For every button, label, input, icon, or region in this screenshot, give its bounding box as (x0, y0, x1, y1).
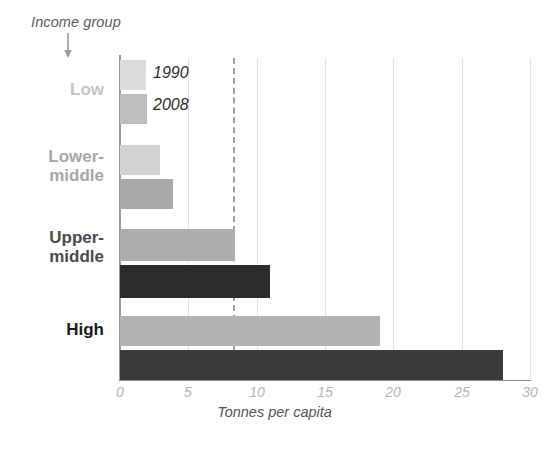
arrow-down-icon (62, 33, 74, 59)
x-axis-title: Tonnes per capita (0, 404, 549, 420)
x-tick-0: 0 (116, 384, 124, 400)
category-label-lower-middle-text: Lower- middle (48, 147, 104, 185)
bar-upper-middle-1990 (120, 229, 235, 261)
x-tick-10: 10 (249, 384, 265, 400)
category-label-upper-middle-text: Upper- middle (49, 228, 104, 266)
category-label-low: Low (0, 80, 104, 99)
bar-upper-middle-2008 (120, 265, 270, 298)
bar-chart: Income group Low Lower- middle Upper- mi… (0, 0, 549, 452)
bar-lower-middle-2008 (120, 179, 173, 209)
gridline-20 (393, 58, 394, 380)
category-label-upper-middle: Upper- middle (0, 228, 104, 266)
bar-low-2008 (120, 94, 147, 124)
category-label-lower-middle: Lower- middle (0, 147, 104, 185)
x-tick-20: 20 (385, 384, 401, 400)
x-tick-5: 5 (184, 384, 192, 400)
bar-low-1990 (120, 60, 146, 90)
gridline-25 (462, 58, 463, 380)
bar-high-1990 (120, 316, 380, 346)
bar-high-2008 (120, 350, 503, 380)
legend-entry-2008: 2008 (153, 96, 189, 114)
x-tick-15: 15 (317, 384, 333, 400)
gridline-30 (530, 58, 531, 380)
category-label-high: High (0, 320, 104, 339)
legend-entry-1990: 1990 (153, 64, 189, 82)
plot-area: 1990 2008 (120, 58, 530, 380)
bar-lower-middle-1990 (120, 145, 160, 175)
x-tick-25: 25 (454, 384, 470, 400)
income-group-annotation: Income group (31, 14, 121, 30)
x-tick-30: 30 (522, 384, 538, 400)
